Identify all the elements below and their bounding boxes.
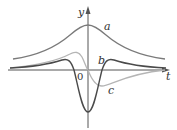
curve-a-label: a: [104, 20, 111, 33]
curve-a: [13, 25, 165, 59]
graph-canvas: y t 0 a b c: [0, 0, 177, 130]
y-axis-arrow-icon: [86, 6, 91, 14]
curve-b-label: b: [98, 54, 105, 67]
y-axis-label: y: [77, 6, 85, 19]
derivative-graph-figure: y t 0 a b c: [0, 0, 177, 130]
origin-label: 0: [77, 71, 83, 82]
t-axis-label: t: [166, 70, 171, 83]
curve-c-label: c: [108, 84, 114, 97]
